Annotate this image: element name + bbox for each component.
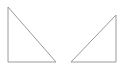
left-right-triangle bbox=[8, 7, 56, 62]
right-right-triangle bbox=[71, 15, 116, 62]
diagram-canvas bbox=[0, 0, 121, 69]
